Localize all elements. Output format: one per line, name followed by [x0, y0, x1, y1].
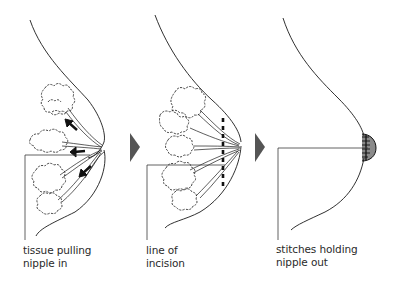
label-line: incision: [146, 257, 185, 270]
breast-outline: [30, 20, 105, 236]
label-line: stitches holding: [276, 243, 358, 256]
label-line: tissue pulling: [23, 244, 91, 257]
breast-outline: [283, 18, 364, 230]
label-tissue-pulling-nipple-in: tissue pulling nipple in: [23, 244, 91, 270]
label-stitches-holding-nipple-out: stitches holding nipple out: [276, 243, 358, 269]
panel-before: [25, 20, 105, 240]
glandular-tissue: [160, 87, 206, 211]
panel-after: [278, 18, 378, 240]
milk-ducts: [190, 110, 240, 198]
panel-incision: [147, 15, 241, 240]
breast-outline: [155, 15, 241, 228]
glandular-tissue: [30, 84, 75, 215]
step-arrow-1-icon: [130, 133, 140, 162]
label-line: nipple in: [23, 257, 91, 270]
label-line-of-incision: line of incision: [146, 244, 185, 270]
label-line: nipple out: [276, 256, 358, 269]
label-line: line of: [146, 244, 185, 257]
leader-line-1: [25, 155, 90, 240]
step-arrow-2-icon: [255, 133, 265, 162]
